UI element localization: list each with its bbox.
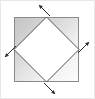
arrow-right [78, 42, 89, 53]
arrow-bottom [44, 83, 55, 94]
geometry-figure [0, 0, 95, 99]
figure-canvas [0, 0, 95, 99]
arrow-top [39, 5, 50, 16]
